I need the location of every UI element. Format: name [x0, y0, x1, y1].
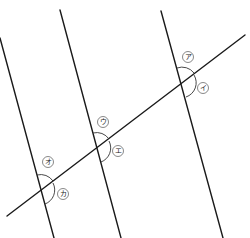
angle-arc-o: [37, 175, 53, 181]
angle-label-o: オ: [43, 157, 54, 168]
angle-arc-u: [93, 133, 109, 139]
parallel-line-2: [60, 10, 121, 238]
angle-arc-a: [177, 67, 194, 73]
svg-text:オ: オ: [45, 158, 52, 166]
svg-text:ウ: ウ: [100, 118, 107, 126]
parallel-line-3: [161, 11, 223, 238]
svg-text:ア: ア: [185, 53, 192, 61]
svg-text:カ: カ: [60, 190, 67, 198]
angle-label-i: イ: [198, 83, 209, 94]
svg-text:エ: エ: [115, 147, 122, 155]
angle-label-u: ウ: [98, 117, 109, 128]
angle-label-a: ア: [183, 52, 194, 63]
angle-label-ka: カ: [58, 189, 69, 200]
parallel-lines-diagram: ア イ ウ エ オ カ: [0, 0, 250, 238]
angle-label-e: エ: [113, 146, 124, 157]
parallel-line-1: [0, 38, 54, 238]
svg-text:イ: イ: [200, 84, 207, 92]
